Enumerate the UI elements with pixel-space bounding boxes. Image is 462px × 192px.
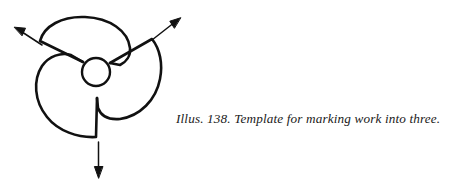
- arrow-upper-left-icon: [15, 27, 43, 45]
- arrow-down-icon: [94, 142, 102, 178]
- center-hole-icon: [82, 58, 110, 86]
- left-lobe-path: [36, 54, 97, 137]
- right-lobe-path: [97, 39, 161, 119]
- figure-caption: Illus. 138. Template for marking work in…: [176, 110, 458, 127]
- three-lobe-template-figure: [0, 0, 462, 192]
- pinwheel-outline: [36, 17, 161, 137]
- figure-page: Illus. 138. Template for marking work in…: [0, 0, 462, 192]
- arrow-upper-right-icon: [152, 18, 181, 40]
